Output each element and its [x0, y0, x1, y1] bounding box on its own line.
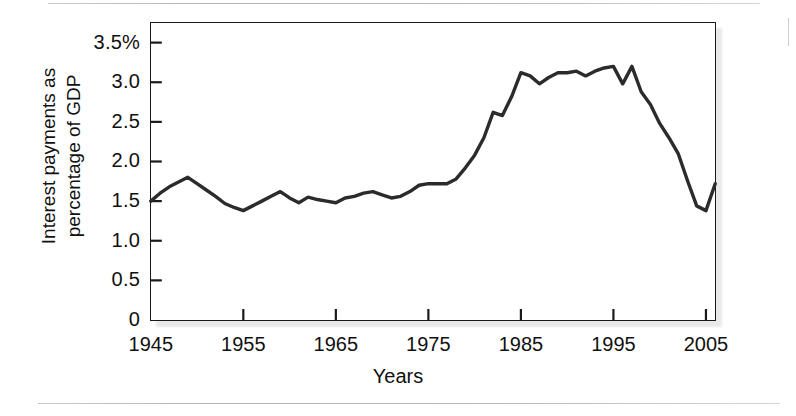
x-tick-label: 1965 [286, 334, 386, 354]
x-tick-label: 1955 [193, 334, 293, 354]
page-rule-bottom [38, 403, 780, 404]
data-series-line [151, 66, 715, 210]
x-tick-label: 2005 [656, 334, 756, 354]
x-axis-title: Years [0, 365, 796, 388]
y-axis-title: Interest payments as percentage of GDP [35, 11, 87, 301]
y-axis-title-line-1: Interest payments as [36, 68, 61, 244]
x-tick-label: 1995 [563, 334, 663, 354]
x-tick-label: 1985 [471, 334, 571, 354]
x-tick-label: 1945 [101, 334, 201, 354]
figure-container: 3.5%3.02.52.01.51.00.50 1945195519651975… [0, 0, 796, 416]
x-tick-label: 1975 [378, 334, 478, 354]
y-tick-label: 0 [40, 309, 140, 329]
y-axis-title-line-2: percentage of GDP [61, 75, 86, 238]
